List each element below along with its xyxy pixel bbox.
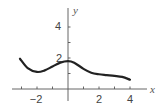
y-tick-label-4: 4 (55, 20, 61, 32)
function-curve (20, 59, 130, 80)
x-tick-label-4: 4 (127, 93, 133, 105)
y-axis-label: y (72, 4, 78, 16)
x-tick-label-neg2: −2 (30, 93, 43, 105)
x-tick-label-2: 2 (96, 93, 102, 105)
function-plot: −2 2 4 4 2 x y (0, 0, 163, 112)
x-axis-label: x (149, 83, 155, 95)
